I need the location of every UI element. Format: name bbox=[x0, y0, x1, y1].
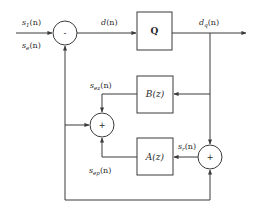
svg-text:-: - bbox=[64, 29, 67, 38]
sum-junction-top: - bbox=[53, 21, 77, 45]
sum-junction-right: + bbox=[198, 145, 222, 169]
quantizer-block: Q bbox=[137, 12, 172, 50]
b-filter-block: B(z) bbox=[137, 76, 173, 113]
svg-text:B(z): B(z) bbox=[145, 89, 165, 99]
sum-junction-mid: + bbox=[90, 113, 114, 137]
label-sr: sr(n) bbox=[178, 142, 196, 152]
svg-text:A(z): A(z) bbox=[145, 152, 165, 162]
sep-wire bbox=[102, 138, 137, 157]
svg-text:Q: Q bbox=[151, 26, 159, 36]
label-se: se(n) bbox=[22, 41, 41, 51]
label-dq: dq(n) bbox=[199, 18, 219, 29]
label-d: d(n) bbox=[101, 18, 118, 27]
label-sez: sez(n) bbox=[90, 81, 112, 91]
sez-wire bbox=[102, 94, 137, 112]
block-diagram: - + + Q B(z) A(z) s1(n) se(n) d(n) dq(n)… bbox=[0, 0, 255, 209]
label-s1: s1(n) bbox=[22, 18, 41, 28]
svg-text:+: + bbox=[99, 121, 106, 130]
label-sep: sep(n) bbox=[89, 166, 111, 177]
a-filter-block: A(z) bbox=[137, 138, 173, 175]
svg-text:+: + bbox=[207, 153, 214, 162]
